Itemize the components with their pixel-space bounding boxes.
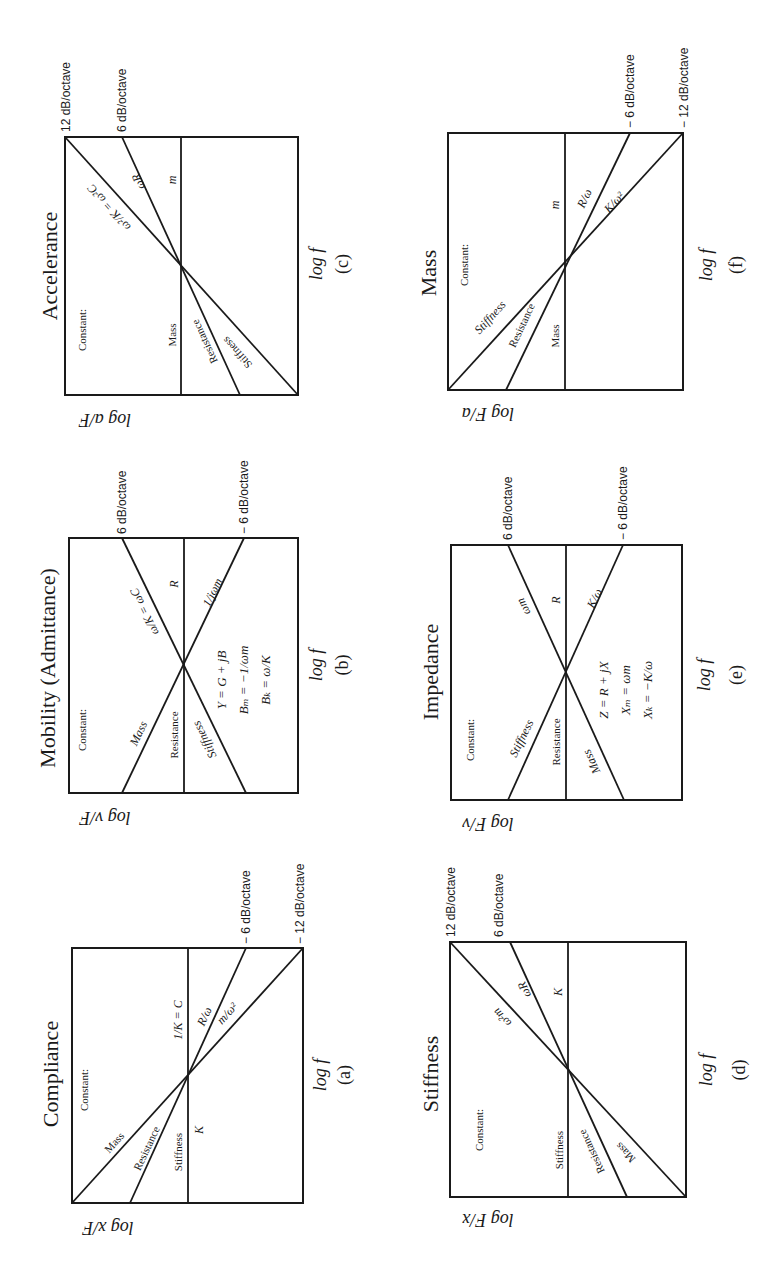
slope-label-6db: − 6 dB/octave <box>623 54 637 128</box>
panel-title: Stiffness <box>418 1036 443 1113</box>
label-1-over-jwm: 1/jωm <box>200 575 226 608</box>
label-stiffness: Stiffness <box>471 298 508 337</box>
label-omega-m: ωm <box>513 596 533 618</box>
slope-label-6db: 6 dB/octave <box>115 68 129 132</box>
label-mass: Mass <box>102 1130 126 1155</box>
slope-label-12db: − 12 dB/octave <box>293 863 307 944</box>
y-axis-label: log F/v <box>462 814 514 834</box>
slope-label-12db: − 12 dB/octave <box>677 47 691 128</box>
slope-label-plus-6db: 6 dB/octave <box>115 470 129 534</box>
panel-letter: (b) <box>332 655 353 676</box>
label-mass: Mass <box>549 324 561 347</box>
label-omega2-over-k: ω²/K = ω²C <box>84 181 134 234</box>
panel-letter: (f) <box>726 256 747 274</box>
slope-label-minus-6db: − 6 dB/octave <box>616 466 630 540</box>
panel-title: Mobility (Admittance) <box>35 568 60 768</box>
y-axis-label: log a/F <box>78 410 132 430</box>
y-axis-label: log v/F <box>78 808 130 828</box>
equation-line-2: Bₘ = −1/ωm <box>236 646 251 715</box>
constant-label: Constant: <box>464 719 476 761</box>
panel-letter: (c) <box>332 254 353 274</box>
y-axis-label: log F/x <box>462 1210 514 1230</box>
slope-label-6db: − 6 dB/octave <box>239 870 253 944</box>
panel-letter: (a) <box>334 1065 355 1085</box>
label-omega-r: ωR <box>514 979 534 1000</box>
label-k: K <box>551 987 565 997</box>
panel-letter: (d) <box>729 1060 750 1081</box>
x-axis-label: log f <box>696 1051 716 1087</box>
label-omega2-m: ω²m <box>490 1005 515 1030</box>
label-mass: Mass <box>166 323 178 346</box>
line-minus-6db <box>506 133 630 390</box>
panel-mobility: Mobility (Admittance) Constant: Mass Res… <box>35 460 353 828</box>
label-stiffness: Stiffness <box>189 718 219 760</box>
x-axis-label: log f <box>306 245 326 281</box>
slope-label-minus-6db: − 6 dB/octave <box>237 460 251 534</box>
y-axis-label: log F/a <box>462 404 515 424</box>
label-stiffness: Stiffness <box>553 1131 565 1169</box>
constant-label: Constant: <box>76 309 88 351</box>
equation-line-3: Bₖ = ω/K <box>258 654 273 705</box>
label-k-over-omega2: K/ω² <box>600 189 627 217</box>
x-axis-label: log f <box>310 1056 330 1092</box>
x-axis-label: log f <box>306 646 326 682</box>
slope-label-6db: 6 dB/octave <box>492 873 506 937</box>
figure-page: Compliance Constant: Mass Resistance Sti… <box>0 0 782 1268</box>
label-stiffness: Stiffness <box>172 1133 184 1171</box>
panel-stiffness: Stiffness Constant: Stiffness Resistance… <box>418 867 750 1230</box>
constant-label: Constant: <box>78 1069 90 1111</box>
label-m: m <box>548 200 562 209</box>
panel-mass: Mass Constant: Stiffness Resistance Mass… <box>416 47 747 424</box>
panel-title: Impedance <box>418 624 443 721</box>
equation-line-1: Y = G + jB <box>214 651 229 710</box>
constant-label: Constant: <box>473 1109 485 1151</box>
six-panel-diagram: Compliance Constant: Mass Resistance Sti… <box>0 0 782 1268</box>
equation-line-3: Xₖ = −K/ω <box>640 661 655 720</box>
label-r: R <box>549 596 563 605</box>
x-axis-label: log f <box>694 656 714 692</box>
label-resistance: Resistance <box>550 718 562 765</box>
constant-label: Constant: <box>458 244 470 286</box>
label-mass: Mass <box>126 718 150 748</box>
equation-line-2: Xₘ = ωm <box>618 665 633 716</box>
label-m-over-omega2: m/ω² <box>214 999 241 1027</box>
panel-title: Compliance <box>38 1021 63 1127</box>
panel-impedance: Impedance Constant: Stiffness Resistance… <box>418 466 747 834</box>
label-1-over-k: 1/K = C <box>171 999 185 1039</box>
label-resistance: Resistance <box>168 711 180 758</box>
x-axis-label: log f <box>696 246 716 282</box>
label-omega-over-k: ω/K = ωC <box>127 585 162 637</box>
y-axis-label: log x/F <box>81 1218 133 1238</box>
panel-letter: (e) <box>726 665 747 685</box>
slope-label-12db: 12 dB/octave <box>444 867 458 937</box>
label-stiffness: Stiffness <box>506 717 536 759</box>
label-m: m <box>165 175 179 184</box>
label-resistance: Resistance <box>576 1128 607 1176</box>
panel-title: Accelerance <box>37 212 62 321</box>
slope-label-12db: 12 dB/octave <box>59 62 73 132</box>
label-r: R <box>167 580 181 589</box>
panel-compliance: Compliance Constant: Mass Resistance Sti… <box>38 863 355 1238</box>
label-r-over-omega: R/ω <box>574 187 595 211</box>
slope-label-plus-6db: 6 dB/octave <box>501 476 515 540</box>
panel-accelerance: Accelerance Constant: Mass Resistance St… <box>37 62 353 430</box>
equation-line-1: Z = R + jX <box>596 660 611 718</box>
constant-label: Constant: <box>76 709 88 751</box>
label-mass: Mass <box>613 1140 638 1165</box>
panel-title: Mass <box>416 250 441 296</box>
label-k: K <box>192 1125 206 1135</box>
label-mass: Mass <box>579 747 603 777</box>
